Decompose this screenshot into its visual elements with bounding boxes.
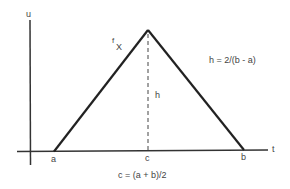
midpoint-formula: c = (a + b)/2 <box>118 170 167 180</box>
triangular-distribution-diagram: u t f X h h = 2/(b - a) a c b c = (a + b… <box>0 0 290 189</box>
triangle-left-edge <box>54 30 148 152</box>
height-formula: h = 2/(b - a) <box>209 55 256 65</box>
u-axis-label: u <box>26 9 31 19</box>
point-b-label: b <box>241 152 246 162</box>
point-c-label: c <box>145 153 150 163</box>
u-axis <box>30 20 31 165</box>
triangle-right-edge <box>148 30 244 150</box>
function-label-main: f <box>112 36 115 45</box>
point-a-label: a <box>51 154 56 164</box>
t-axis-label: t <box>272 144 275 154</box>
height-label: h <box>155 90 160 100</box>
function-label-subscript: X <box>116 42 122 52</box>
